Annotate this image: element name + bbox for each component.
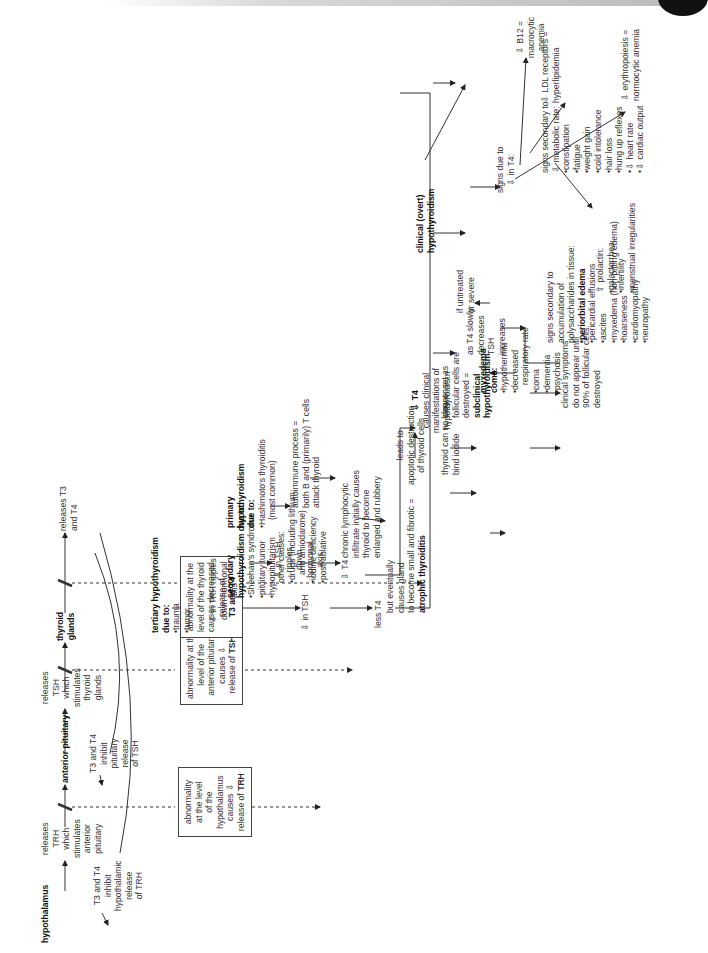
sign: menstrual irregularities — [627, 203, 638, 293]
line: hypothyroidism — [426, 189, 437, 253]
tertiary-abnormality-box: abnormality at the level of the hypothal… — [178, 767, 252, 837]
line: which — [61, 819, 72, 858]
t4-signs-title: signs due to ⇩ in T4: — [495, 147, 516, 193]
line: release — [124, 860, 135, 911]
line: ⇧ prolactin: — [595, 203, 606, 293]
line: to become small and fibrotic = — [406, 499, 417, 613]
line: macrocytic — [526, 17, 537, 58]
atrophic-thyroiditis: but eventually causes gland to become sm… — [385, 499, 427, 613]
sign: infertility — [616, 203, 627, 293]
line: anemia — [536, 17, 547, 58]
tertiary-hypothyroidism: tertiary hypothyroidism due to: traumatu… — [150, 537, 192, 633]
b12-anemia: ⇩ B12 = macrocytic anemia — [515, 17, 547, 58]
line: stimulates — [72, 819, 83, 858]
decreased-t4-text: ⇩ T4 — [340, 560, 351, 580]
line: T3 and T4 — [88, 734, 99, 773]
line: TRH — [51, 819, 62, 858]
bold-text: TRH — [236, 773, 246, 791]
line: autoimmune process = — [290, 399, 301, 508]
sign: constipation — [561, 101, 572, 173]
releases-tsh-text: releases TSH which stimulates thyroid gl… — [40, 668, 104, 707]
sign: hung up reflexes — [614, 101, 625, 173]
line: releases T3 — [58, 486, 69, 531]
line: release of TSH — [227, 631, 238, 699]
line: release of TRH — [236, 773, 247, 831]
sign: galactorrhea — [606, 203, 617, 293]
sign: hypothermia — [499, 327, 510, 393]
line: attack thyroid — [311, 399, 322, 508]
text: release of — [227, 653, 237, 693]
line: tertiary hypothyroidism — [150, 537, 161, 633]
line: respiratory rate — [520, 327, 531, 393]
line: chronic lymphocytic — [340, 470, 351, 558]
anterior-pituitary-label: anterior pituitary — [60, 715, 71, 783]
line: of TRH — [134, 860, 145, 911]
line: abnormality — [183, 773, 194, 831]
cause: trauma — [171, 537, 182, 633]
line: anterior pituitary — [206, 631, 217, 699]
erythropoiesis-anemia: ⇩ erythropoiesis = normocytic anemia — [620, 29, 641, 101]
cause: tumor — [182, 537, 193, 633]
line: other causes: — [276, 492, 287, 583]
line: coma: — [489, 327, 500, 393]
line: infiltrate initially causes — [351, 470, 362, 558]
line: signs secondary to — [540, 101, 551, 173]
line: anterior — [82, 819, 93, 858]
decreased-tsh-text: ⇩ in TSH — [300, 595, 311, 632]
line: at the level — [194, 773, 205, 831]
line: abnormality at the — [185, 631, 196, 699]
text: release of — [236, 791, 246, 831]
line: glands — [93, 668, 104, 707]
line: enlarged and rubbery — [372, 470, 383, 558]
line: hypothalamic — [113, 860, 124, 911]
line: of the — [204, 773, 215, 831]
line: hypothyroidism — [236, 439, 247, 528]
line: stimulates — [72, 668, 83, 707]
line: destroyed = — [461, 352, 472, 418]
line: ⇩ metabolic rate: — [551, 101, 562, 173]
sign: coma — [531, 327, 542, 393]
line: thyroid to become — [361, 470, 372, 558]
cause: Hashimoto's thyroiditis — [257, 439, 268, 528]
line: signs secondary to — [545, 221, 556, 343]
decreased-t4-manifestations: ⇩ T4 causes clinical manifestations of h… — [410, 368, 452, 433]
line: inhibit — [99, 734, 110, 773]
line: inhibit — [103, 860, 114, 911]
line: myxedema — [478, 327, 489, 393]
line: causes clinical — [421, 368, 432, 433]
line: causes ⇩ — [217, 631, 228, 699]
prolactin-signs: ⇧ prolactin: galactorrhea infertility me… — [595, 203, 637, 293]
sign: neuropathy — [640, 221, 651, 343]
line: hypothyroidism — [442, 368, 453, 433]
thyroid-glands-label: thyroid glands — [55, 612, 76, 641]
line: ⇩ in T4: — [506, 147, 517, 193]
clinical-hypothyroidism: clinical (overt) hypothyroidism — [415, 189, 436, 253]
untreated-label: if untreated or severe — [455, 270, 476, 313]
line: both B and (primarily) T cells — [301, 399, 312, 508]
line: thyroid — [82, 668, 93, 707]
sign: ⇩ heart rate — [625, 101, 636, 173]
lymphocytic-infiltrate: chronic lymphocytic infiltrate initially… — [340, 470, 382, 558]
line: polysaccharides in tissue: — [566, 221, 577, 343]
line: of TSH — [130, 734, 141, 773]
metabolic-signs: signs secondary to ⇩ metabolic rate: con… — [540, 101, 646, 173]
autoimmune-process: autoimmune process = both B and (primari… — [290, 399, 322, 508]
releases-t3t4-text: releases T3 and T4 — [58, 486, 79, 531]
line: atrophic thyroiditis — [417, 499, 428, 613]
line: causes gland — [396, 499, 407, 613]
primary-hypothyroidism: primary hypothyroidism due to: Hashimoto… — [225, 439, 278, 528]
sign: fatigue — [572, 101, 583, 173]
line: clinical (overt) — [415, 189, 426, 253]
line: level of the — [196, 631, 207, 699]
sign: weight gain — [582, 101, 593, 173]
feedback-tsh-text: T3 and T4 inhibit pituitary release of T… — [88, 734, 141, 773]
line: due to: — [161, 537, 172, 633]
sign: ⇩ cardiac output — [635, 101, 646, 173]
line: if untreated — [455, 270, 466, 313]
line: glands — [66, 612, 77, 641]
line: ⇩ erythropoiesis = — [620, 29, 631, 101]
line: thyroid — [55, 612, 66, 641]
sign: cold intolerance — [593, 101, 604, 173]
line: ⇩ T4 — [410, 368, 421, 433]
feedback-trh-text: T3 and T4 inhibit hypothalamic release o… — [92, 860, 145, 911]
